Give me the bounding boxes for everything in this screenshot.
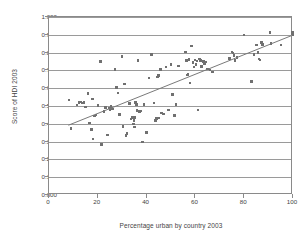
x-axis-tick-mark [292, 194, 293, 198]
scatter-chart: Score of HDI 2003 Percentage urban by co… [0, 0, 308, 239]
x-axis-tick-label: 0 [36, 198, 60, 205]
x-axis-tick-mark [97, 194, 98, 198]
x-axis-tick-mark [194, 194, 195, 198]
x-axis-tick-label: 100 [280, 198, 304, 205]
x-axis-tick-label: 80 [231, 198, 255, 205]
x-axis-tick-mark [48, 194, 49, 198]
y-axis-title: Score of HDI 2003 [11, 42, 18, 152]
plot-area [48, 16, 292, 194]
x-axis-tick-mark [146, 194, 147, 198]
x-axis-tick-label: 40 [134, 198, 158, 205]
x-axis-tick-label: 20 [85, 198, 109, 205]
x-axis-title: Percentage urban by country 2003 [48, 222, 294, 229]
trendline [49, 17, 291, 193]
data-point [292, 34, 295, 37]
x-axis-tick-label: 60 [182, 198, 206, 205]
x-axis-tick-mark [243, 194, 244, 198]
